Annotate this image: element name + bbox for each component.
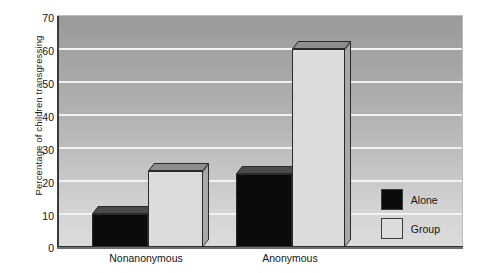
- legend-item-group: Group: [381, 218, 440, 239]
- y-tick-20: 20: [28, 178, 54, 189]
- bar-front-face: [236, 174, 292, 247]
- gridline-50: [58, 81, 462, 83]
- gridline-60: [58, 48, 462, 50]
- bar-side-face: [345, 41, 351, 247]
- y-tick-30: 30: [28, 145, 54, 156]
- bar-front-face: [292, 49, 345, 247]
- gridline-30: [58, 147, 462, 149]
- bar-top-face: [236, 166, 298, 174]
- gridline-40: [58, 114, 462, 116]
- bar-chart-figure: Percentage of children transgressing 70 …: [0, 0, 478, 273]
- y-tick-0: 0: [28, 243, 54, 254]
- y-axis-tick-labels: 70 60 50 40 30 20 10 0: [24, 0, 54, 273]
- x-category-label-nonanonymous: Nonanonymous: [86, 252, 206, 264]
- alone-swatch-icon: [381, 189, 403, 210]
- y-axis-line: [57, 16, 59, 249]
- bar-top-face: [92, 206, 154, 214]
- chart-legend: Alone Group: [381, 189, 440, 239]
- bar-front-face: [92, 214, 148, 247]
- bar-top-face: [292, 41, 351, 49]
- y-tick-40: 40: [28, 112, 54, 123]
- plot-area: Alone Group: [58, 16, 462, 247]
- y-tick-50: 50: [28, 79, 54, 90]
- bar-anonymous-group: [292, 49, 345, 247]
- bar-nonanonymous-alone: [92, 214, 148, 247]
- bar-front-face: [148, 171, 203, 247]
- legend-item-alone: Alone: [381, 189, 440, 210]
- bar-anonymous-alone: [236, 174, 292, 247]
- bar-top-face: [148, 163, 209, 171]
- y-tick-10: 10: [28, 211, 54, 222]
- legend-label-alone: Alone: [411, 194, 438, 206]
- legend-label-group: Group: [411, 223, 440, 235]
- x-axis-line: [57, 246, 463, 247]
- y-tick-70: 70: [28, 13, 54, 24]
- x-category-label-anonymous: Anonymous: [235, 252, 345, 264]
- group-swatch-icon: [381, 218, 403, 239]
- bar-nonanonymous-group: [148, 171, 203, 247]
- y-tick-60: 60: [28, 46, 54, 57]
- bar-side-face: [203, 163, 209, 247]
